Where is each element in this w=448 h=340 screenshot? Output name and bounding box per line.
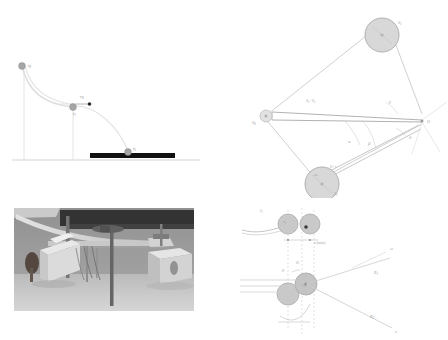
label-left-vertex: S0 <box>252 120 256 126</box>
link-s0-s1 <box>268 32 371 114</box>
label-axis-x: x <box>394 329 397 334</box>
pulley-canvas: l1 r1 e (mm) O ω R1 R2 x θ r2 <box>240 200 448 340</box>
arc-gamma <box>386 102 398 114</box>
arc-alpha <box>344 120 360 145</box>
ray-r2 <box>306 284 392 328</box>
label-angle-beta: β <box>367 141 371 146</box>
label-radius-1: R1 <box>373 270 378 276</box>
label-angle-delta: δ <box>409 135 412 140</box>
ray-r1 <box>306 258 390 284</box>
label-cord: l1 <box>260 208 263 214</box>
link-s1-o <box>394 40 422 114</box>
ball-at-t2 <box>125 149 132 156</box>
pivot-point-o <box>421 120 424 123</box>
label-angle-alpha: α <box>348 139 351 144</box>
label-main-bar: S₀+S₂ <box>306 98 316 103</box>
label-pivot-o: O <box>427 119 430 124</box>
label-t0: t0 <box>28 63 31 69</box>
label-omega: ω <box>390 246 393 251</box>
secondary-bar-lower <box>328 129 421 178</box>
guide-rail-inner <box>25 66 76 105</box>
laboratory-apparatus-photograph <box>14 208 194 311</box>
label-center-o: O <box>296 260 299 265</box>
left-pivot-center <box>264 114 267 117</box>
label-t1: t1 <box>73 111 76 117</box>
pulley-pair-schematic: l1 r1 e (mm) O ω R1 R2 x θ r2 <box>240 200 448 340</box>
projectile-path <box>76 106 128 151</box>
ray-lower-right <box>422 122 440 152</box>
label-v0: v0 <box>80 94 84 100</box>
label-gap: e (mm) <box>314 240 326 245</box>
ray-upper-right <box>422 102 447 120</box>
four-bar-linkage-diagram: S1 S2 S0 S₀+S₂ S+r O α β γ δ ω <box>226 2 448 198</box>
label-secondary-bar: S+r <box>330 164 337 169</box>
roller-top-right <box>300 214 320 234</box>
photo-canvas <box>14 208 194 311</box>
label-angle-gamma: γ <box>389 99 392 104</box>
label-t2: t2 <box>133 146 136 152</box>
landing-pad <box>90 153 175 158</box>
cord-upper-2 <box>242 230 284 235</box>
gap-tick-left <box>287 239 289 241</box>
label-angle-theta: θ <box>282 268 284 273</box>
main-bar-upper-edge <box>272 112 422 120</box>
label-angle-omega: ω <box>314 172 318 177</box>
velocity-arrow-head <box>88 102 92 106</box>
ball-trajectory-diagram: t0 t1 t2 v0 <box>0 0 224 178</box>
linkage-canvas: S1 S2 S0 S₀+S₂ S+r O α β γ δ ω <box>226 2 448 198</box>
gap-tick-right <box>309 239 311 241</box>
ray-omega <box>352 252 386 268</box>
label-pulley-top: S1 <box>398 20 402 26</box>
link-s0-s2 <box>268 122 314 177</box>
lower-arc <box>280 304 310 320</box>
main-bar-lower-edge <box>272 120 422 122</box>
photo-grain-overlay <box>14 208 194 311</box>
guide-rail-outer <box>22 66 73 107</box>
secondary-bar-upper <box>326 125 419 173</box>
roller-top-right-hub <box>304 225 308 229</box>
trajectory-canvas: t0 t1 t2 v0 <box>0 0 224 178</box>
angle-mark-arc <box>292 270 300 272</box>
cord-upper <box>242 226 284 232</box>
label-radius-2: R2 <box>369 314 374 320</box>
roller-top-left <box>278 214 298 234</box>
ball-at-t0 <box>19 63 26 70</box>
ball-at-t1 <box>70 104 77 111</box>
